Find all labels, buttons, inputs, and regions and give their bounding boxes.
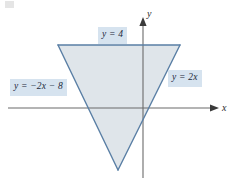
equation-label-y-equals-4: y = 4 <box>98 27 127 44</box>
equation-label-2x: y = 2x <box>168 70 202 87</box>
equation-label-negative-2x-minus-8: y = −2x − 8 <box>10 79 67 96</box>
x-axis-label: x <box>222 103 226 113</box>
x-axis-arrowhead <box>210 104 219 111</box>
y-axis-arrowhead <box>139 17 146 26</box>
graph-figure: y = 4 y = −2x − 8 y = 2x y x <box>0 0 236 188</box>
y-axis-label: y <box>147 9 151 19</box>
